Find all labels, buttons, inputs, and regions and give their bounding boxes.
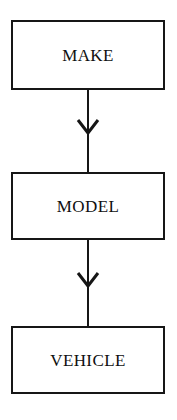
node-model-label: MODEL bbox=[57, 198, 119, 215]
node-vehicle[interactable]: VEHICLE bbox=[11, 326, 165, 394]
node-vehicle-label: VEHICLE bbox=[50, 352, 126, 369]
node-model[interactable]: MODEL bbox=[11, 172, 165, 240]
arrowhead-make-model bbox=[78, 120, 98, 133]
node-make-label: MAKE bbox=[62, 47, 114, 64]
arrowhead-model-vehicle bbox=[78, 273, 98, 286]
node-make[interactable]: MAKE bbox=[11, 20, 165, 90]
diagram-canvas: MAKE MODEL VEHICLE bbox=[0, 0, 177, 420]
